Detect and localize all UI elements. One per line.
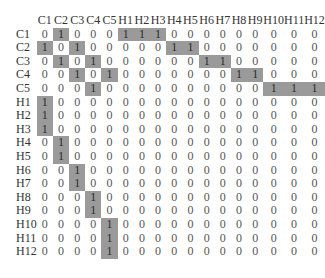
column-header: C3 [69, 14, 85, 28]
matrix-row: H1000001000000000000 [14, 218, 325, 232]
matrix-cell: 0 [85, 218, 101, 232]
matrix-cell: 0 [263, 164, 284, 178]
matrix-cell: 0 [69, 245, 85, 259]
column-header: H4 [166, 14, 182, 28]
matrix-cell: 0 [199, 82, 215, 96]
matrix-cell: 0 [263, 191, 284, 205]
matrix-cell: 0 [182, 109, 198, 123]
matrix-cell: 0 [37, 232, 53, 246]
matrix-cell: 0 [101, 136, 117, 150]
matrix-cell: 0 [166, 109, 182, 123]
matrix-cell: 0 [69, 218, 85, 232]
row-header: C3 [14, 55, 37, 69]
matrix-row: C301010000001100000 [14, 55, 325, 69]
matrix-cell: 0 [53, 41, 69, 55]
matrix-cell: 0 [231, 177, 247, 191]
matrix-cell: 0 [37, 136, 53, 150]
matrix-cell: 0 [85, 96, 101, 110]
matrix-cell: 0 [304, 68, 325, 82]
matrix-cell: 0 [69, 123, 85, 137]
matrix-cell: 0 [304, 123, 325, 137]
matrix-cell: 0 [85, 164, 101, 178]
row-header: H8 [14, 191, 37, 205]
matrix-cell: 0 [182, 245, 198, 259]
matrix-cell: 0 [263, 204, 284, 218]
column-header: H1 [118, 14, 134, 28]
matrix-cell: 0 [215, 96, 231, 110]
matrix-cell: 0 [85, 28, 101, 42]
matrix-row: C400101000000011000 [14, 68, 325, 82]
matrix-cell: 0 [284, 123, 304, 137]
row-header: C1 [14, 28, 37, 42]
matrix-cell-highlighted: 1 [85, 55, 101, 69]
matrix-cell: 0 [150, 109, 166, 123]
matrix-cell: 0 [150, 245, 166, 259]
matrix-cell: 0 [118, 177, 134, 191]
matrix-cell: 0 [263, 68, 284, 82]
matrix-cell: 0 [101, 96, 117, 110]
matrix-cell-highlighted: 1 [118, 28, 134, 42]
column-header: H2 [134, 14, 150, 28]
matrix-cell: 0 [37, 245, 53, 259]
column-header: C1 [37, 14, 53, 28]
matrix-cell-highlighted: 1 [247, 68, 263, 82]
matrix-cell: 0 [284, 245, 304, 259]
matrix-cell: 0 [304, 150, 325, 164]
matrix-cell: 0 [37, 218, 53, 232]
matrix-cell: 0 [284, 204, 304, 218]
matrix-cell: 0 [69, 232, 85, 246]
matrix-cell: 0 [166, 204, 182, 218]
matrix-cell: 0 [118, 68, 134, 82]
matrix-cell: 0 [166, 245, 182, 259]
matrix-cell: 0 [53, 218, 69, 232]
matrix-cell: 0 [118, 96, 134, 110]
matrix-cell: 0 [284, 96, 304, 110]
matrix-cell: 0 [263, 150, 284, 164]
matrix-cell: 0 [134, 109, 150, 123]
matrix-cell: 0 [215, 82, 231, 96]
matrix-cell: 0 [118, 204, 134, 218]
matrix-cell: 0 [182, 191, 198, 205]
matrix-cell: 0 [166, 68, 182, 82]
matrix-cell: 0 [69, 109, 85, 123]
matrix-cell: 0 [53, 68, 69, 82]
matrix-cell: 0 [37, 177, 53, 191]
matrix-cell: 0 [101, 55, 117, 69]
matrix-cell: 0 [199, 136, 215, 150]
matrix-cell: 0 [263, 177, 284, 191]
matrix-cell: 0 [263, 28, 284, 42]
matrix-cell-highlighted: 1 [37, 109, 53, 123]
matrix-cell: 0 [85, 177, 101, 191]
matrix-cell: 0 [304, 164, 325, 178]
matrix-cell: 0 [134, 150, 150, 164]
matrix-cell: 0 [118, 41, 134, 55]
matrix-cell: 0 [231, 245, 247, 259]
matrix-cell: 0 [182, 28, 198, 42]
matrix-cell-highlighted: 1 [182, 41, 198, 55]
matrix-cell: 0 [247, 204, 263, 218]
matrix-cell: 0 [231, 136, 247, 150]
matrix-cell: 0 [101, 82, 117, 96]
matrix-cell-highlighted: 1 [231, 68, 247, 82]
matrix-cell: 0 [118, 82, 134, 96]
matrix-cell-highlighted: 1 [101, 68, 117, 82]
matrix-cell: 0 [53, 245, 69, 259]
matrix-cell: 0 [85, 232, 101, 246]
matrix-cell: 0 [284, 164, 304, 178]
matrix-cell: 0 [134, 55, 150, 69]
column-header: H3 [150, 14, 166, 28]
matrix-cell: 0 [150, 218, 166, 232]
matrix-cell: 0 [263, 96, 284, 110]
matrix-cell: 0 [150, 82, 166, 96]
matrix-cell: 0 [101, 28, 117, 42]
matrix-cell: 0 [118, 164, 134, 178]
matrix-cell: 0 [166, 55, 182, 69]
matrix-cell: 0 [118, 123, 134, 137]
matrix-cell: 0 [118, 109, 134, 123]
matrix-row: H800010000000000000 [14, 191, 325, 205]
matrix-cell: 0 [182, 123, 198, 137]
matrix-cell: 0 [53, 191, 69, 205]
matrix-cell: 0 [101, 150, 117, 164]
column-header-row: C1C2C3C4C5H1H2H3H4H5H6H7H8H9H10H11H12 [14, 14, 325, 28]
matrix-cell: 0 [37, 150, 53, 164]
